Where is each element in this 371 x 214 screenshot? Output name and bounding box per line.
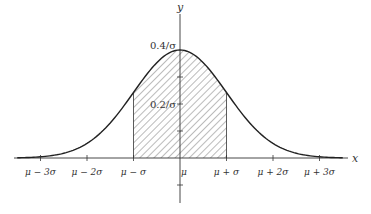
normal-distribution-diagram: x y 0.4/σ 0.2/σ μ − 3σ μ − 2σ μ − σ μ μ … [0,0,371,214]
x-axis-label: x [352,152,359,165]
x-tick-label-mu-plus-2sigma: μ + 2σ [258,167,290,177]
y-axis-label: y [176,1,184,14]
x-tick-label-mu-minus-3sigma: μ − 3σ [25,167,57,177]
y-tick-label-0.4: 0.4/σ [150,40,176,51]
y-tick-label-0.2: 0.2/σ [150,99,176,110]
x-tick-label-mu-plus-sigma: μ + σ [214,167,240,177]
x-tick-label-mu: μ [181,167,187,177]
x-tick-label-mu-plus-3sigma: μ + 3σ [304,167,336,177]
x-tick-label-mu-minus-sigma: μ − σ [121,167,147,177]
x-tick-label-mu-minus-2sigma: μ − 2σ [72,167,104,177]
